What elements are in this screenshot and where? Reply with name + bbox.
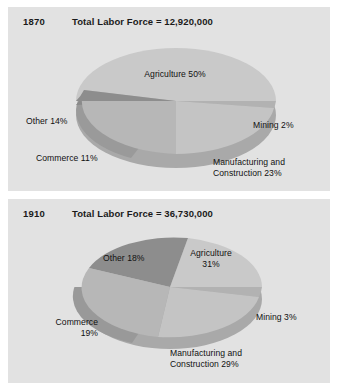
label-agriculture-1910: Agriculture 31% (166, 248, 256, 269)
label-manufacturing-1870: Manufacturing and Construction 23% (213, 157, 330, 178)
chart-panel-1870: 1870 Total Labor Force = 12,920,000 (8, 7, 330, 191)
label-commerce-1870: Commerce 11% (36, 153, 136, 164)
label-agriculture-1870: Agriculture 50% (120, 69, 230, 80)
label-mining-1910: Mining 3% (256, 312, 330, 323)
label-mining-1870: Mining 2% (253, 120, 330, 131)
label-commerce-1910: Commerce 19% (18, 317, 98, 338)
label-other-1870: Other 14% (26, 116, 106, 127)
chart-panel-1910: 1910 Total Labor Force = 36,730,000 (8, 199, 330, 383)
pie-chart-1870: Agriculture 50% Mining 2% Manufacturing … (8, 7, 330, 191)
figure-root: 1870 Total Labor Force = 12,920,000 (0, 0, 338, 391)
pie-chart-1910: Agriculture 31% Mining 3% Manufacturing … (8, 199, 330, 383)
label-manufacturing-1910: Manufacturing and Construction 29% (170, 348, 305, 369)
label-other-1910: Other 18% (103, 253, 173, 264)
